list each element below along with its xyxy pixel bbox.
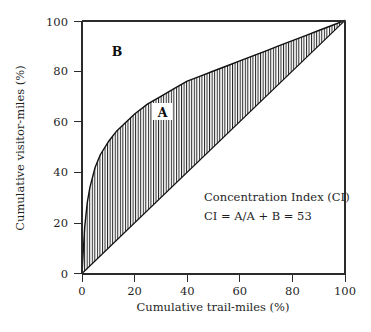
y-tick-label-80: 80 — [53, 64, 68, 78]
y-tick-label-40: 40 — [53, 165, 68, 179]
region-b-label: B — [112, 44, 123, 59]
y-tick-label-60: 60 — [53, 115, 68, 129]
y-tick-label-0: 0 — [61, 267, 68, 281]
x-tick-label-80: 80 — [285, 284, 300, 298]
region-a-label: A — [157, 105, 168, 120]
x-tick-label-60: 60 — [232, 284, 247, 298]
x-axis-title: Cumulative trail-miles (%) — [136, 300, 289, 314]
lorenz-curve-figure: 0 20 40 60 80 100 0 20 40 60 80 100 Cumu… — [0, 0, 371, 332]
x-tick-label-40: 40 — [180, 284, 195, 298]
x-tick-label-20: 20 — [127, 284, 142, 298]
concentration-index-title: Concentration Index (CI) — [204, 190, 350, 204]
y-axis-ticks — [74, 21, 82, 274]
chart-canvas: 0 20 40 60 80 100 0 20 40 60 80 100 Cumu… — [0, 0, 371, 332]
concentration-index-formula: CI = A/A + B = 53 — [204, 209, 312, 223]
y-tick-label-100: 100 — [46, 15, 68, 29]
x-tick-label-0: 0 — [78, 284, 85, 298]
concentration-index-note: Concentration Index (CI) CI = A/A + B = … — [204, 190, 350, 223]
x-tick-label-100: 100 — [334, 284, 356, 298]
y-tick-label-20: 20 — [53, 216, 68, 230]
x-axis-ticks — [82, 274, 345, 282]
y-tick-labels: 0 20 40 60 80 100 — [46, 15, 68, 281]
x-tick-labels: 0 20 40 60 80 100 — [78, 284, 356, 298]
y-axis-title: Cumulative visitor-miles (%) — [13, 65, 27, 231]
